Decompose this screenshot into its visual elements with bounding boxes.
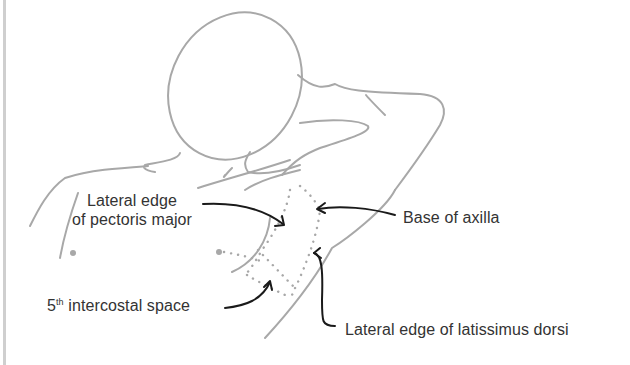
- label-pectoralis-line2: of pectoris major: [72, 210, 192, 229]
- arrow-pectoralis: [203, 204, 283, 224]
- triangle-of-safety-dotted-outline: [224, 186, 320, 298]
- collar-line: [198, 160, 300, 190]
- label-lateral-edge-latissimus: Lateral edge of latissimus dorsi: [345, 320, 569, 339]
- label-lateral-edge-pectoralis: Lateral edge of pectoris major: [72, 191, 192, 229]
- label-fifth-intercostal-space: 5th intercostal space: [47, 296, 190, 315]
- latissimus-line: [265, 190, 395, 338]
- pectoral-curve: [232, 218, 270, 272]
- neck-right-outline: [298, 75, 444, 190]
- arm-inner-line: [366, 95, 385, 115]
- arrow-intercostal: [225, 282, 270, 308]
- nipple-right: [216, 249, 222, 255]
- nipple-left: [70, 250, 76, 256]
- anatomy-diagram: Lateral edge of pectoris major Base of a…: [0, 0, 630, 365]
- arrow-axilla: [318, 207, 395, 215]
- label-ics-text: intercostal space: [64, 297, 190, 314]
- label-ics-suffix: th: [56, 297, 64, 307]
- label-pectoralis-line1: Lateral edge: [72, 191, 192, 210]
- label-base-of-axilla: Base of axilla: [403, 208, 500, 227]
- head-outline: [143, 0, 327, 183]
- arrow-latissimus: [314, 253, 335, 326]
- label-ics-ordinal: 5: [47, 297, 56, 314]
